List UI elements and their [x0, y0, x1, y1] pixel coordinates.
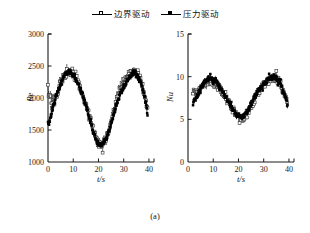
y-tick-label: 1500 — [28, 126, 44, 135]
x-tick-label: 0 — [46, 165, 50, 174]
y-tick-label: 3000 — [28, 30, 44, 39]
y-axis-label-nu: Nu — [165, 83, 175, 111]
x-tick-label: 40 — [285, 165, 293, 174]
x-axis-label-re: t/s — [91, 174, 111, 184]
chart-legend: 边界驱动 压力驱动 — [0, 10, 310, 19]
x-tick-label: 10 — [209, 165, 217, 174]
y-tick-label: 1000 — [28, 158, 44, 167]
series-pressure-driven — [192, 73, 289, 120]
open-square-marker-icon — [92, 10, 112, 18]
legend-label-pressure-driven: 压力驱动 — [183, 10, 219, 19]
y-axis-label-re: Re — [25, 83, 35, 111]
y-tick-label: 5 — [180, 115, 184, 124]
x-tick-label: 30 — [260, 165, 268, 174]
legend-item-pressure-driven: 压力驱动 — [161, 10, 219, 19]
y-tick-label: 0 — [180, 158, 184, 167]
series-pressure-driven — [47, 69, 149, 147]
x-tick-label: 40 — [145, 165, 153, 174]
x-tick-label: 20 — [234, 165, 242, 174]
x-tick-label: 20 — [94, 165, 102, 174]
x-tick-label: 0 — [186, 165, 190, 174]
legend-item-boundary-driven: 边界驱动 — [92, 10, 150, 19]
x-tick-label: 10 — [69, 165, 77, 174]
figure-container: 边界驱动 压力驱动 10001500200025003000010203040 … — [0, 0, 310, 233]
plot-panel-nu: 051015010203040 Nu t/s — [162, 28, 304, 188]
y-tick-label: 10 — [176, 73, 184, 82]
legend-label-boundary-driven: 边界驱动 — [114, 10, 150, 19]
plot-area-nu: 051015010203040 — [162, 28, 304, 188]
figure-caption: (a) — [0, 211, 310, 221]
plot-panel-re: 10001500200025003000010203040 Re t/s — [12, 28, 160, 188]
x-axis-label-nu: t/s — [231, 174, 251, 184]
y-tick-label: 2500 — [28, 62, 44, 71]
y-tick-label: 15 — [176, 30, 184, 39]
filled-square-marker-icon — [161, 10, 181, 18]
x-tick-label: 30 — [120, 165, 128, 174]
